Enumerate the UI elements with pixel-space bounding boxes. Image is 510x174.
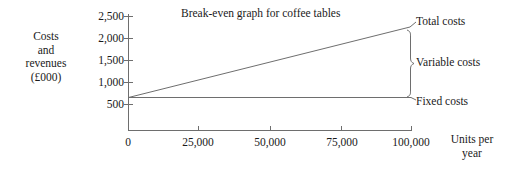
variable-costs-brace xyxy=(407,30,414,97)
series-line-total-costs xyxy=(129,27,411,98)
leader-line-total-costs xyxy=(410,22,416,27)
break-even-chart-figure: Costs and revenues (£000) 2,500 2,000 1,… xyxy=(0,0,510,174)
chart-plot-area xyxy=(0,0,510,174)
leader-line-fixed-costs xyxy=(411,98,416,101)
